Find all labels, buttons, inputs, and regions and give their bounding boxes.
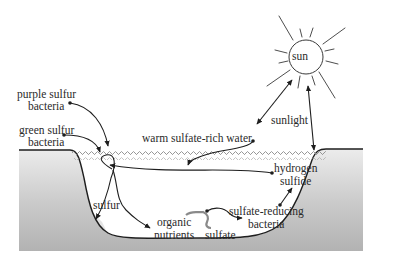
label-hydrogen-sulfide-line2: sulfide xyxy=(280,175,311,188)
label-sulfate-reducing-line2: bacteria xyxy=(248,218,284,231)
label-purple-sulfur-line2: bacteria xyxy=(28,100,64,113)
label-sun: sun xyxy=(292,50,308,63)
label-sulfate-reducing-line1: sulfate-reducing xyxy=(229,205,304,218)
label-warm-water: warm sulfate-rich water xyxy=(142,132,252,145)
label-organic-line2: nutrients xyxy=(154,229,194,242)
sulfur-cycle-diagram: sun sunlight warm sulfate-rich water pur… xyxy=(0,0,397,261)
label-sulfur: sulfur xyxy=(93,199,120,212)
label-organic-line1: organic xyxy=(157,216,191,229)
label-green-sulfur-line2: bacteria xyxy=(28,136,64,149)
label-sulfate: sulfate xyxy=(205,229,236,242)
label-sunlight: sunlight xyxy=(271,114,308,127)
label-hydrogen-sulfide-line1: hydrogen xyxy=(274,162,317,175)
sunlight-arrow-down xyxy=(308,86,314,150)
